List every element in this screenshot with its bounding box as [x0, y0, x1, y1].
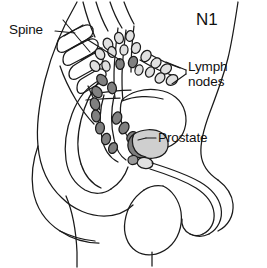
lymph-nodes-label-line2: nodes — [188, 74, 224, 89]
stage-label-n1: N1 — [196, 13, 218, 28]
prostate-label: Prostate — [158, 131, 207, 146]
spine-label: Spine — [9, 23, 43, 38]
anatomical-figure: Spine N1 Lymphnodes Prostate — [0, 0, 267, 268]
anatomy-illustration — [0, 0, 267, 268]
lymph-nodes-label: Lymphnodes — [188, 60, 228, 89]
lymph-nodes-label-line1: Lymph — [188, 59, 228, 74]
